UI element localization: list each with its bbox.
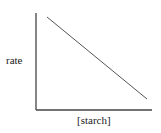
x-axis-label: [starch] bbox=[77, 114, 111, 126]
y-axis-label: rate bbox=[6, 54, 22, 66]
data-line bbox=[47, 17, 147, 99]
